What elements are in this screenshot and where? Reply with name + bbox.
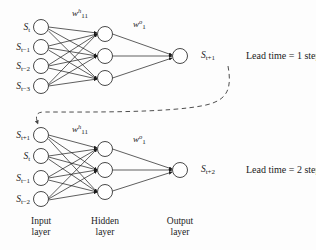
bottom-input-label-1: St	[2, 152, 30, 163]
top-hidden-weight-label: wh11	[72, 8, 88, 20]
bottom-lead-time-label: Lead time = 2 step	[246, 165, 316, 175]
top-input-label-0: St	[2, 23, 30, 34]
top-output-weight-label: wo1	[133, 19, 146, 31]
top-hidden-output-edges	[113, 34, 173, 78]
node-output-0	[173, 163, 188, 178]
node-input-3	[34, 79, 49, 94]
top-input-hidden-edges	[49, 27, 98, 86]
node-hidden-0	[98, 142, 113, 157]
node-input-2	[34, 171, 49, 186]
top-input-label-3: St−3	[2, 82, 30, 93]
bottom-input-nodes	[34, 128, 49, 207]
top-lead-time-label: Lead time = 1 step	[246, 51, 316, 61]
bottom-hidden-output-edges	[113, 149, 173, 191]
node-hidden-2	[98, 71, 113, 86]
node-input-3	[34, 192, 49, 207]
top-output-label: St+1	[201, 51, 215, 62]
top-input-label-2: St−2	[2, 62, 30, 73]
neural-network-figure: St St−1 St−2 St−3 wh11 wo1 St+1 Lead tim…	[0, 0, 316, 250]
bottom-hidden-weight-label: wh11	[72, 124, 88, 136]
bottom-hidden-nodes	[98, 142, 113, 200]
bottom-output-label: St+2	[201, 165, 215, 176]
layer-label-hidden: Hidden layer	[80, 216, 130, 238]
bottom-input-label-2: St−1	[2, 174, 30, 185]
node-output-0	[173, 49, 188, 64]
bottom-output-node	[173, 163, 188, 178]
node-input-1	[34, 40, 49, 55]
top-hidden-nodes	[98, 27, 113, 86]
bottom-input-label-3: St−2	[2, 195, 30, 206]
top-output-node	[173, 49, 188, 64]
node-hidden-0	[98, 27, 113, 42]
bottom-input-label-0: St+1	[2, 131, 30, 142]
node-hidden-1	[98, 163, 113, 178]
bottom-output-weight-label: wo1	[133, 134, 146, 146]
node-input-1	[34, 149, 49, 164]
layer-label-input: Input layer	[16, 216, 66, 238]
node-input-0	[34, 128, 49, 143]
node-input-0	[34, 20, 49, 35]
diagram-canvas	[0, 0, 316, 250]
node-input-2	[34, 59, 49, 74]
layer-label-output: Output layer	[155, 216, 205, 238]
node-hidden-1	[98, 49, 113, 64]
node-hidden-2	[98, 185, 113, 200]
bottom-input-hidden-edges	[49, 135, 98, 200]
top-input-label-1: St−1	[2, 43, 30, 54]
top-input-nodes	[34, 20, 49, 94]
